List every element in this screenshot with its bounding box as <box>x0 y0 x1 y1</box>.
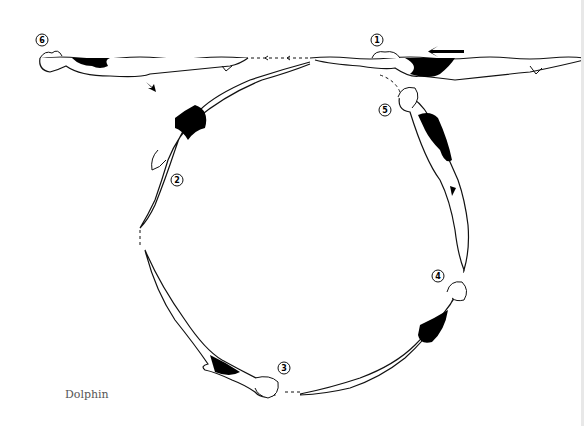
figure-caption: Dolphin <box>65 388 109 401</box>
swimmer-position-3 <box>145 250 278 398</box>
position-number-5: 5 <box>379 104 391 116</box>
swimmer-position-2 <box>140 62 310 228</box>
swimmer-position-6 <box>40 51 248 77</box>
position-number-1: 1 <box>371 34 383 46</box>
dolphin-figure-diagram: 1 6 5 2 4 3 <box>0 0 584 426</box>
svg-text:2: 2 <box>174 176 180 185</box>
position-number-4: 4 <box>432 270 444 282</box>
position-number-2: 2 <box>171 174 183 186</box>
swimmer-position-4 <box>300 282 467 395</box>
arrow-left-icon <box>428 46 464 57</box>
position-number-3: 3 <box>278 362 290 374</box>
svg-text:6: 6 <box>39 36 45 45</box>
svg-text:1: 1 <box>374 36 380 45</box>
svg-text:5: 5 <box>382 106 388 115</box>
position-number-6: 6 <box>36 34 48 46</box>
swimmer-position-5 <box>398 87 469 270</box>
svg-text:4: 4 <box>435 272 441 281</box>
arrow-down-right-icon <box>146 82 156 92</box>
dashed-path-5-to-1 <box>380 75 400 92</box>
svg-text:3: 3 <box>281 364 287 373</box>
swimmer-position-1 <box>315 52 584 80</box>
dashed-path-circle <box>140 210 467 392</box>
